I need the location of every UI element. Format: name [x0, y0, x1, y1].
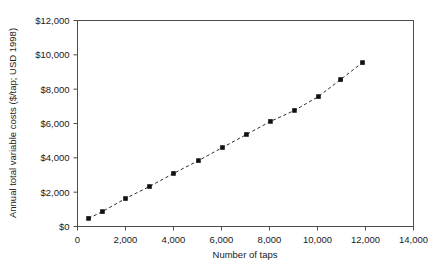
- y-tick-label: $6,000: [40, 118, 69, 129]
- data-series: [86, 60, 365, 220]
- x-axis-title: Number of taps: [213, 249, 278, 260]
- y-axis-title: Annual total variable costs ($/tap; USD …: [7, 28, 18, 218]
- x-axis-tick-labels: 02,0004,0006,0008,00010,00012,00014,000: [75, 234, 428, 245]
- x-tick-label: 10,000: [303, 234, 332, 245]
- x-tick-label: 12,000: [351, 234, 380, 245]
- data-point-marker: [316, 94, 321, 99]
- x-tick-label: 8,000: [258, 234, 282, 245]
- data-point-marker: [220, 145, 225, 150]
- y-tick-label: $4,000: [40, 152, 69, 163]
- data-point-marker: [100, 209, 105, 214]
- data-point-marker: [244, 132, 249, 137]
- x-tick-label: 6,000: [210, 234, 234, 245]
- plot-frame: [78, 21, 414, 227]
- data-point-marker: [268, 119, 273, 124]
- data-point-marker: [338, 77, 343, 82]
- y-tick-label: $2,000: [40, 187, 69, 198]
- x-tick-label: 0: [75, 234, 80, 245]
- data-point-marker: [123, 196, 128, 201]
- variable-costs-line-chart: $0$2,000$4,000$6,000$8,000$10,000$12,000…: [0, 0, 445, 274]
- chart-container: $0$2,000$4,000$6,000$8,000$10,000$12,000…: [0, 0, 445, 274]
- y-axis-ticks: [74, 21, 78, 227]
- data-point-marker: [360, 60, 365, 65]
- y-axis-tick-labels: $0$2,000$4,000$6,000$8,000$10,000$12,000: [35, 15, 69, 232]
- data-point-marker: [171, 171, 176, 176]
- x-tick-label: 2,000: [114, 234, 138, 245]
- y-tick-label: $10,000: [35, 49, 69, 60]
- y-tick-label: $12,000: [35, 15, 69, 26]
- data-point-marker: [196, 158, 201, 163]
- y-tick-label: $8,000: [40, 84, 69, 95]
- data-point-marker: [147, 184, 152, 189]
- data-point-marker: [292, 108, 297, 113]
- y-tick-label: $0: [59, 221, 70, 232]
- series-line: [89, 63, 363, 219]
- x-tick-label: 14,000: [399, 234, 428, 245]
- x-axis-ticks: [78, 227, 414, 231]
- data-point-marker: [86, 216, 91, 221]
- x-tick-label: 4,000: [162, 234, 186, 245]
